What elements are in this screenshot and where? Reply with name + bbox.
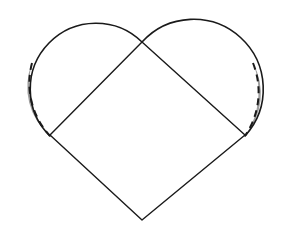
diagram-background xyxy=(0,0,283,236)
figure-container xyxy=(0,0,283,236)
heart-geometry-diagram xyxy=(0,0,283,236)
